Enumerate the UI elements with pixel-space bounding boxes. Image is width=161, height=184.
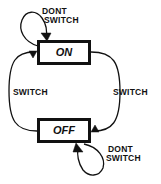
transition-off-self-loop-path <box>78 144 104 175</box>
transition-label-off-to-on-line1: SWITCH <box>13 87 48 97</box>
transition-label-off-to-on: SWITCH <box>13 87 48 97</box>
transition-label-on-self: DONT SWITCH <box>42 6 79 25</box>
state-diagram: ON OFF DONT SWITCH SWITCH SWITCH DONT SW… <box>0 0 161 184</box>
state-node-off[interactable]: OFF <box>37 118 91 143</box>
state-node-on[interactable]: ON <box>37 40 91 65</box>
transition-on-to-off-arrowhead <box>91 125 99 132</box>
transition-off-self-loop <box>73 143 104 175</box>
state-node-off-label: OFF <box>53 124 75 136</box>
transition-label-off-self-line2: SWITCH <box>106 153 141 163</box>
transition-off-to-on-arrowhead <box>29 51 37 58</box>
transition-label-off-self: DONT SWITCH <box>106 144 141 163</box>
transition-label-on-self-line2: SWITCH <box>44 15 79 25</box>
state-node-on-label: ON <box>56 46 74 58</box>
transition-off-self-loop-arrowhead <box>73 143 83 152</box>
transition-label-on-to-off-line1: SWITCH <box>113 87 148 97</box>
transition-on-self-loop-arrowhead <box>41 33 51 41</box>
transition-label-on-to-off: SWITCH <box>113 87 148 97</box>
state-diagram-canvas: ON OFF DONT SWITCH SWITCH SWITCH DONT SW… <box>0 0 161 184</box>
